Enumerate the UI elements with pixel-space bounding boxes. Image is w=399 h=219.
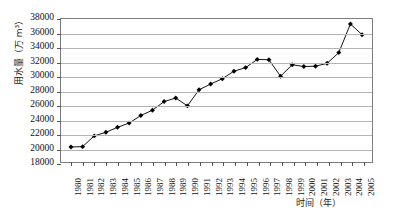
x-tick-label: 2001 [320, 178, 329, 196]
x-tick-label: 1998 [285, 178, 294, 196]
x-tick-label: 1993 [226, 178, 235, 196]
x-tick-label: 1991 [203, 178, 212, 196]
data-point [313, 64, 318, 69]
x-tick-label: 1995 [250, 178, 259, 196]
y-tick-label: 20000 [30, 144, 54, 154]
y-tick-label: 38000 [30, 13, 54, 23]
gridline [61, 48, 372, 49]
x-tick-label: 1987 [156, 178, 165, 196]
data-point [208, 82, 213, 87]
data-series [61, 19, 372, 162]
gridline [61, 121, 372, 122]
x-tick-label: 1994 [238, 178, 247, 196]
x-tick-label: 1999 [297, 178, 306, 196]
x-tick-label: 1997 [273, 178, 282, 196]
x-tick-label: 1984 [121, 178, 130, 196]
y-tick-mark [57, 150, 61, 151]
y-tick-mark [57, 106, 61, 107]
gridline [61, 63, 372, 64]
x-tick-label: 1988 [168, 178, 177, 196]
y-tick-label: 24000 [30, 115, 54, 125]
data-point [301, 64, 306, 69]
gridline [61, 92, 372, 93]
data-point [115, 125, 120, 130]
series-line [71, 24, 362, 147]
x-tick-label: 1981 [86, 178, 95, 196]
y-tick-label: 34000 [30, 42, 54, 52]
y-tick-label: 36000 [30, 28, 54, 38]
x-tick-label: 2004 [355, 178, 364, 196]
x-tick-label: 1983 [109, 178, 118, 196]
gridline [61, 135, 372, 136]
plot-area [60, 18, 373, 163]
y-tick-mark [57, 34, 61, 35]
x-tick-label: 1990 [191, 178, 200, 196]
x-tick-label: 1989 [179, 178, 188, 196]
y-tick-mark [57, 135, 61, 136]
x-tick-label: 2005 [367, 178, 376, 196]
y-tick-label: 28000 [30, 86, 54, 96]
y-tick-mark [57, 48, 61, 49]
x-tick-label: 1980 [74, 178, 83, 196]
y-axis-tick-labels: 3800036000340003200030000280002600024000… [22, 0, 58, 219]
y-tick-label: 26000 [30, 100, 54, 110]
y-tick-label: 30000 [30, 71, 54, 81]
y-tick-mark [57, 63, 61, 64]
x-tick-label: 1992 [215, 178, 224, 196]
x-tick-label: 2002 [332, 178, 341, 196]
y-tick-mark [57, 77, 61, 78]
gridline [61, 34, 372, 35]
x-tick-label: 1986 [144, 178, 153, 196]
x-tick-label: 2003 [344, 178, 353, 196]
y-tick-label: 22000 [30, 129, 54, 139]
y-tick-mark [57, 121, 61, 122]
data-point [138, 113, 143, 118]
x-tick-label: 2000 [308, 178, 317, 196]
x-tick-label: 1985 [133, 178, 142, 196]
x-axis-title: 时间（年） [296, 196, 341, 209]
gridline [61, 150, 372, 151]
y-tick-mark [57, 92, 61, 93]
y-tick-mark [57, 19, 61, 20]
gridline [61, 77, 372, 78]
gridline [61, 106, 372, 107]
x-tick-label: 1996 [262, 178, 271, 196]
y-tick-label: 18000 [30, 158, 54, 168]
y-tick-label: 32000 [30, 57, 54, 67]
x-axis-tick-labels: 1980198119821983198419851986198719881989… [60, 165, 373, 199]
water-consumption-line-chart: 用水量（万 m³） 380003600034000320003000028000… [0, 0, 399, 219]
x-tick-label: 1982 [97, 178, 106, 196]
data-point [231, 69, 236, 74]
